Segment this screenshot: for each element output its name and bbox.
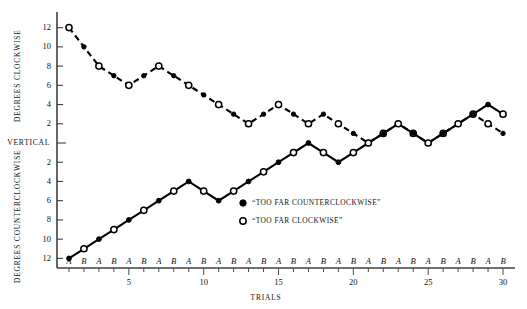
x-sublabel-a: A	[425, 256, 432, 266]
data-point-open	[245, 121, 251, 127]
x-sublabel-b: B	[201, 256, 207, 266]
data-point-open	[216, 101, 222, 107]
data-point-open	[455, 121, 461, 127]
data-point-open	[111, 226, 117, 232]
x-sublabel-a: A	[95, 256, 102, 266]
x-sublabel-a: A	[125, 256, 132, 266]
data-point-filled	[381, 131, 385, 135]
x-sublabel-b: B	[231, 256, 237, 266]
x-axis-title: TRIALS	[251, 293, 282, 302]
data-point-filled	[216, 198, 221, 203]
x-sublabel-b: B	[261, 256, 267, 266]
data-point-filled	[126, 218, 131, 223]
data-point-filled	[246, 179, 251, 184]
data-point-filled	[112, 73, 116, 77]
legend-marker-open	[240, 218, 246, 224]
data-point-open	[290, 150, 296, 156]
x-sublabel-b: B	[381, 256, 387, 266]
data-point-open	[171, 188, 177, 194]
y-axis-title-upper: DEGREES CLOCKWISE	[13, 29, 22, 122]
data-point-open	[66, 25, 72, 31]
data-point-filled	[186, 179, 191, 184]
data-point-filled	[501, 131, 505, 135]
x-sublabel-a: A	[395, 256, 402, 266]
y-tick-label: 6	[47, 80, 51, 90]
x-sublabel-a: A	[305, 256, 312, 266]
data-point-open	[305, 121, 311, 127]
data-point-filled	[336, 160, 341, 165]
legend-marker-filled	[240, 200, 246, 206]
chart-legend: “TOO FAR COUNTERCLOCKWISE”“TOO FAR CLOCK…	[240, 198, 381, 225]
x-sublabel-b: B	[500, 256, 506, 266]
data-point-open	[500, 111, 506, 117]
data-point-filled	[142, 73, 146, 77]
x-sublabel-a: A	[454, 256, 461, 266]
data-point-open	[275, 101, 281, 107]
x-tick-label: 30	[499, 277, 508, 287]
chart-page: 12108642VERTICAL24681012 51015202530ABAB…	[0, 0, 527, 309]
data-point-open	[231, 188, 237, 194]
data-series-group	[66, 25, 506, 261]
data-point-open	[335, 121, 341, 127]
data-point-open	[81, 246, 87, 252]
data-point-open	[186, 82, 192, 88]
y-axis-origin-label: VERTICAL	[7, 138, 50, 147]
x-sublabel-b: B	[351, 256, 357, 266]
y-tick-label: 8	[47, 61, 51, 71]
y-tick-label: 12	[43, 253, 52, 263]
x-sublabel-b: B	[411, 256, 417, 266]
data-point-filled	[351, 131, 355, 135]
y-axis-title-lower: DEGREES COUNTERCLOCKWISE	[13, 150, 22, 284]
x-sublabel-b: B	[111, 256, 117, 266]
data-point-filled	[471, 112, 475, 116]
x-sublabel-a: A	[245, 256, 252, 266]
x-tick-label: 15	[274, 277, 283, 287]
x-tick-label: 10	[199, 277, 208, 287]
data-point-filled	[231, 112, 235, 116]
data-point-open	[126, 82, 132, 88]
x-sublabel-a: A	[215, 256, 222, 266]
data-point-open	[141, 207, 147, 213]
x-sublabel-b: B	[291, 256, 297, 266]
x-sublabel-a: A	[185, 256, 192, 266]
y-tick-label: 2	[47, 118, 51, 128]
data-point-filled	[67, 256, 72, 261]
data-point-filled	[321, 112, 325, 116]
y-tick-label: 12	[43, 22, 52, 32]
data-point-filled	[261, 112, 265, 116]
data-point-open	[156, 63, 162, 69]
data-point-filled	[486, 102, 491, 107]
x-sublabel-b: B	[81, 256, 87, 266]
y-tick-label: 10	[43, 234, 52, 244]
x-sublabel-b: B	[171, 256, 177, 266]
y-tick-label: 2	[47, 157, 51, 167]
series-line-2	[69, 28, 503, 143]
data-point-open	[425, 140, 431, 146]
data-point-filled	[441, 131, 445, 135]
data-point-filled	[411, 131, 415, 135]
x-sublabel-a: A	[275, 256, 282, 266]
x-sublabel-b: B	[321, 256, 327, 266]
x-sublabel-b: B	[470, 256, 476, 266]
data-point-open	[260, 169, 266, 175]
data-point-filled	[172, 73, 176, 77]
x-tick-label: 25	[424, 277, 433, 287]
data-point-filled	[97, 237, 102, 242]
data-point-filled	[201, 93, 205, 97]
data-point-open	[485, 121, 491, 127]
x-sublabel-a: A	[335, 256, 342, 266]
axis-titles: TRIALSDEGREES CLOCKWISEDEGREES COUNTERCL…	[13, 29, 281, 302]
line-chart: 12108642VERTICAL24681012 51015202530ABAB…	[0, 0, 527, 309]
x-tick-label: 5	[127, 277, 131, 287]
data-point-filled	[306, 141, 311, 146]
x-axis: 51015202530ABABABABABABABABABABABABABABA…	[57, 256, 515, 287]
x-sublabel-a: A	[365, 256, 372, 266]
data-point-filled	[156, 198, 161, 203]
series-line-1	[69, 105, 503, 259]
data-point-filled	[291, 112, 295, 116]
data-point-open	[320, 150, 326, 156]
data-point-open	[365, 140, 371, 146]
y-tick-label: 6	[47, 195, 51, 205]
data-point-open	[201, 188, 207, 194]
y-tick-label: 4	[47, 176, 52, 186]
